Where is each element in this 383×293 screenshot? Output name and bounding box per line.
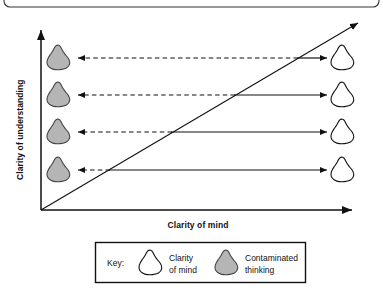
clarity-blob-1 [331, 45, 354, 70]
row-1 [47, 45, 354, 70]
contaminated-blob-3 [47, 119, 70, 144]
legend-clarity-line1: Clarity [169, 253, 194, 263]
clarity-blob-4 [331, 157, 354, 182]
row-4 [47, 157, 354, 182]
x-axis-label: Clarity of mind [167, 220, 228, 230]
clarity-blob-3 [331, 119, 354, 144]
legend: Key: Clarity of mind Contaminated thinki… [96, 243, 306, 283]
contaminated-blob-4 [47, 157, 70, 182]
contaminated-blob-2 [47, 82, 70, 107]
outer-frame-top-border [4, 0, 379, 7]
legend-contaminated-line2: thinking [245, 265, 275, 275]
figure-canvas: Clarity of understanding Clarity of mind… [0, 0, 383, 293]
legend-clarity-line2: of mind [169, 265, 197, 275]
y-axis-label: Clarity of understanding [15, 79, 25, 180]
diagram-svg: Clarity of understanding Clarity of mind… [0, 0, 383, 293]
legend-contaminated-line1: Contaminated [245, 253, 298, 263]
clarity-blob-2 [331, 82, 354, 107]
row-3 [47, 119, 354, 144]
contaminated-blob-1 [47, 45, 70, 70]
legend-key-label: Key: [107, 258, 124, 268]
row-2 [47, 82, 354, 107]
diagonal-line [41, 23, 358, 210]
